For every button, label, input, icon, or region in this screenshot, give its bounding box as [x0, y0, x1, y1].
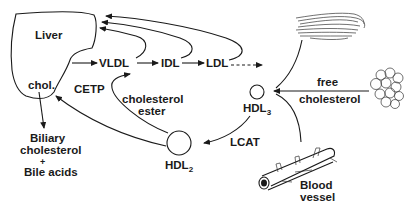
- biliary-label-2: cholesterol: [20, 144, 81, 156]
- lcat-label: LCAT: [230, 136, 260, 148]
- cholesterol-transport-diagram: Liver chol. Biliary cholesterol + Bile a…: [0, 0, 413, 208]
- arrow-idl-to-liver: [102, 22, 192, 58]
- biliary-label-1: Biliary: [30, 132, 66, 144]
- line-vessel-to-hdl3: [276, 94, 301, 142]
- hdl2-label: HDL2: [165, 159, 194, 174]
- idl-label: IDL: [161, 57, 180, 69]
- ce-label-1: cholesterol: [122, 93, 183, 105]
- hdl2-particle: [167, 131, 191, 155]
- ce-label-2: ester: [138, 105, 166, 117]
- liver-label: Liver: [35, 29, 63, 41]
- biliary-label-3: Bile acids: [24, 166, 78, 178]
- hdl3-particle: [250, 85, 264, 99]
- arrow-vldl-to-liver: [100, 28, 146, 58]
- ldl-label: LDL: [206, 57, 228, 69]
- vessel-label-1: Blood: [300, 179, 333, 191]
- vldl-label: VLDL: [99, 57, 129, 69]
- arrow-chol-to-biliary: [39, 92, 44, 128]
- free-label: free: [317, 76, 338, 88]
- vessel-label-2: vessel: [300, 191, 335, 203]
- cetp-label: CETP: [74, 83, 105, 95]
- muscle-fiber-icon: [296, 13, 365, 39]
- chol-label: chol.: [28, 79, 55, 91]
- line-muscle-to-hdl3: [276, 40, 302, 88]
- arrow-ldl-to-liver: [106, 16, 242, 60]
- hdl3-label: HDL3: [243, 102, 272, 117]
- adipose-cells-icon: [371, 68, 404, 109]
- free-chol-label: cholesterol: [299, 93, 360, 105]
